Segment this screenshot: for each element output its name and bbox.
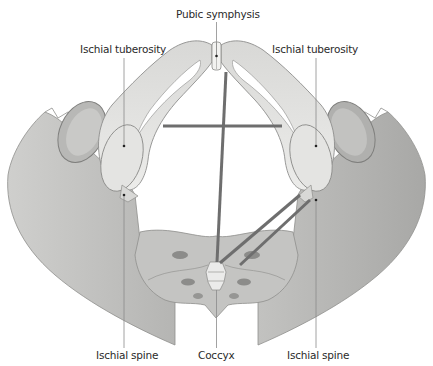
label-ischial-spine-right: Ischial spine bbox=[287, 349, 349, 361]
pelvis-illustration bbox=[0, 0, 433, 366]
label-pubic-symphysis: Pubic symphysis bbox=[176, 8, 260, 20]
label-ischial-spine-left: Ischial spine bbox=[96, 349, 158, 361]
label-coccyx: Coccyx bbox=[198, 349, 235, 361]
anteroposterior-diameter-line bbox=[217, 72, 226, 262]
label-ischial-tuberosity-right: Ischial tuberosity bbox=[272, 43, 358, 55]
pelvic-outlet-diagram: Pubic symphysis Ischial tuberosity Ischi… bbox=[0, 0, 433, 366]
label-ischial-tuberosity-left: Ischial tuberosity bbox=[80, 43, 166, 55]
